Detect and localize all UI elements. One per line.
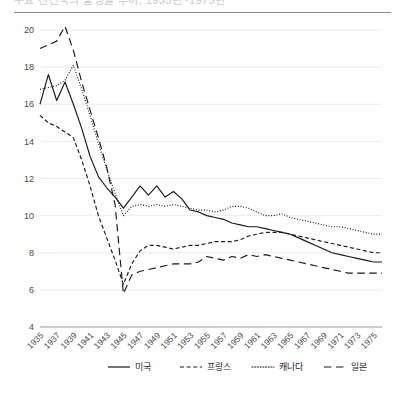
x-axis-tick-1943: 1943 — [92, 330, 113, 351]
y-axis-tick-10: 10 — [24, 211, 34, 221]
x-axis-tick-1963: 1963 — [259, 330, 280, 351]
legend-item-france-label: 프랑스 — [207, 361, 231, 372]
x-axis-tick-1967: 1967 — [292, 330, 313, 351]
title-divider — [14, 12, 391, 13]
series-line-2 — [40, 65, 382, 234]
y-axis-tick-20: 20 — [24, 25, 34, 35]
legend-item-usa-label: 미국 — [135, 362, 151, 372]
x-axis-tick-1941: 1941 — [75, 330, 96, 351]
x-axis-tick-1937: 1937 — [42, 330, 63, 351]
legend-item-japan-label: 일본 — [351, 362, 367, 372]
x-axis-tick-1947: 1947 — [125, 330, 146, 351]
x-axis-tick-1955: 1955 — [192, 330, 213, 351]
y-axis-tick-18: 18 — [24, 62, 34, 72]
y-axis-tick-4: 4 — [29, 322, 34, 332]
x-axis-tick-1975: 1975 — [359, 330, 380, 351]
x-axis-tick-1951: 1951 — [158, 330, 179, 351]
y-axis-tick-14: 14 — [24, 137, 34, 147]
x-axis-tick-1945: 1945 — [108, 330, 129, 351]
x-axis-tick-1961: 1961 — [242, 330, 263, 351]
chart-container: 4681012141618201935193719391941194319451… — [0, 14, 405, 397]
page-title: 주요 선진국의 출생률 추이, 1935년~1975년 — [14, 0, 225, 7]
line-chart: 4681012141618201935193719391941194319451… — [0, 14, 405, 397]
x-axis-tick-1971: 1971 — [325, 330, 346, 351]
y-axis-tick-8: 8 — [29, 248, 34, 258]
y-axis-tick-12: 12 — [24, 174, 34, 184]
legend-item-canada-label: 캐나다 — [279, 362, 304, 372]
x-axis-tick-1959: 1959 — [225, 330, 246, 351]
series-line-0 — [40, 75, 382, 262]
x-axis-tick-1953: 1953 — [175, 330, 196, 351]
y-axis-tick-16: 16 — [24, 99, 34, 109]
x-axis-tick-1957: 1957 — [208, 330, 229, 351]
x-axis-tick-1969: 1969 — [309, 330, 330, 351]
x-axis-tick-1939: 1939 — [58, 330, 79, 351]
x-axis-tick-1949: 1949 — [142, 330, 163, 351]
x-axis-tick-1935: 1935 — [25, 330, 46, 351]
y-axis-tick-6: 6 — [29, 285, 34, 295]
x-axis-tick-1965: 1965 — [275, 330, 296, 351]
x-axis-tick-1973: 1973 — [342, 330, 363, 351]
series-line-1 — [40, 115, 382, 284]
